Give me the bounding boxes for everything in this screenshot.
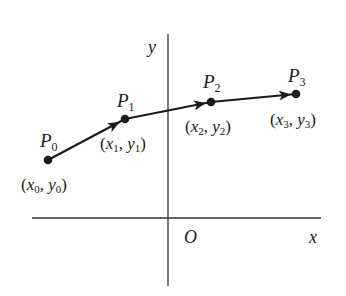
paren-close: ) bbox=[225, 117, 231, 136]
coord-y: y bbox=[127, 134, 135, 153]
paren-close: ) bbox=[61, 175, 67, 194]
label-p2-name: P bbox=[203, 71, 215, 92]
label-p0: P0 bbox=[40, 131, 58, 153]
x-axis-label: x bbox=[309, 228, 317, 246]
label-p3-name: P bbox=[288, 65, 300, 86]
comma: , bbox=[204, 117, 213, 136]
label-p0-name: P bbox=[40, 130, 52, 151]
coord-p1: (x1, y1) bbox=[100, 135, 146, 154]
label-p1: P1 bbox=[117, 91, 135, 113]
coord-y: y bbox=[48, 175, 56, 194]
point-p0 bbox=[44, 156, 53, 165]
origin-label: O bbox=[184, 228, 197, 246]
point-p1 bbox=[121, 115, 130, 124]
label-p1-name: P bbox=[117, 90, 129, 111]
paren-close: ) bbox=[140, 134, 146, 153]
comma: , bbox=[289, 110, 298, 129]
comma: , bbox=[119, 134, 128, 153]
paren-close: ) bbox=[310, 110, 316, 129]
coord-p3: (x3, y3) bbox=[270, 111, 316, 130]
comma: , bbox=[40, 175, 49, 194]
point-p2 bbox=[207, 98, 216, 107]
label-p1-index: 1 bbox=[129, 100, 135, 114]
label-p2-index: 2 bbox=[215, 81, 221, 95]
coord-y: y bbox=[212, 117, 220, 136]
label-p3-index: 3 bbox=[300, 75, 306, 89]
y-axis-label: y bbox=[148, 38, 156, 56]
point-p3 bbox=[292, 90, 301, 99]
coord-p2: (x2, y2) bbox=[185, 118, 231, 137]
label-p2: P2 bbox=[203, 72, 221, 94]
label-p0-index: 0 bbox=[52, 140, 58, 154]
label-p3: P3 bbox=[288, 66, 306, 88]
segment-p2-p3 bbox=[211, 94, 296, 102]
coord-y: y bbox=[297, 110, 305, 129]
coord-p0: (x0, y0) bbox=[21, 176, 67, 195]
